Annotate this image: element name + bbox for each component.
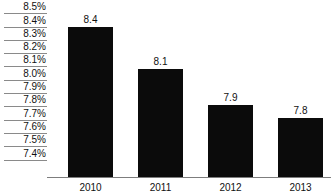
y-axis-tick-label: 8.3% [23, 28, 46, 39]
bar[interactable] [138, 69, 183, 178]
y-axis-tick: 8.2% [4, 41, 47, 54]
bar-group: 7.8 [278, 0, 323, 178]
y-axis-tick-label: 7.9% [23, 81, 46, 92]
y-axis-tick-label: 8.5% [23, 1, 46, 12]
y-axis-tick-label: 7.4% [23, 148, 46, 159]
bar-value-label: 8.1 [138, 56, 183, 67]
y-axis-tick-label: 7.6% [23, 121, 46, 132]
y-axis-tick: 8.4% [4, 14, 47, 27]
bar-chart: 8.5% 8.4% 8.3% 8.2% 8.1% 8.0% 7.9% 7.8% … [0, 0, 333, 196]
x-axis-line [47, 177, 331, 178]
x-axis-tick-label: 2010 [68, 182, 113, 194]
y-axis-tick: 7.7% [4, 107, 47, 120]
x-axis: 2010 2011 2012 2013 [47, 179, 333, 196]
plot-area: 8.4 8.1 7.9 7.8 [47, 0, 333, 178]
y-axis-tick-label: 8.4% [23, 15, 46, 26]
bar[interactable] [208, 105, 253, 178]
bar-value-label: 8.4 [68, 14, 113, 25]
y-axis-tick: 7.9% [4, 81, 47, 94]
bar-group: 7.9 [208, 0, 253, 178]
bar[interactable] [278, 118, 323, 178]
y-axis-tick: 8.0% [4, 68, 47, 81]
bar-value-label: 7.8 [278, 105, 323, 116]
x-axis-tick-label: 2013 [278, 182, 323, 194]
bar-group: 8.4 [68, 0, 113, 178]
bar-group: 8.1 [138, 0, 183, 178]
y-axis-tick-label: 7.7% [23, 108, 46, 119]
y-axis-tick-label: 8.0% [23, 68, 46, 79]
x-axis-tick-label: 2012 [208, 182, 253, 194]
y-axis: 8.5% 8.4% 8.3% 8.2% 8.1% 8.0% 7.9% 7.8% … [0, 0, 48, 180]
y-axis-tick: 8.1% [4, 54, 47, 67]
y-axis-tick-label: 8.1% [23, 54, 46, 65]
y-axis-tick: 7.4% [4, 147, 47, 160]
y-axis-tick-label: 7.8% [23, 94, 46, 105]
bar-value-label: 7.9 [208, 92, 253, 103]
y-axis-tick: 7.6% [4, 121, 47, 134]
y-axis-tick-label: 8.2% [23, 41, 46, 52]
y-axis-tick-label: 7.5% [23, 134, 46, 145]
y-axis-tick: 8.5% [4, 1, 47, 14]
y-axis-tick: 8.3% [4, 28, 47, 41]
bar[interactable] [68, 27, 113, 178]
x-axis-tick-label: 2011 [138, 182, 183, 194]
y-axis-tick: 7.8% [4, 94, 47, 107]
y-axis-tick: 7.5% [4, 134, 47, 147]
